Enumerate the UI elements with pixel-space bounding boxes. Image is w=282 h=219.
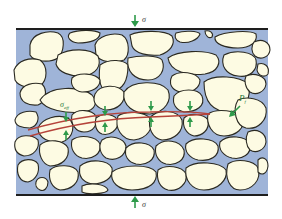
granular-fracture-diagram: σ σ σeff Pf	[0, 0, 282, 219]
sigma-bottom-arrow-icon	[131, 196, 139, 208]
sigma-bottom-label: σ	[142, 200, 147, 209]
sigma-top-label: σ	[142, 15, 147, 24]
sigma-top-arrow-icon	[131, 15, 139, 27]
sigma-eff-subscript: eff	[64, 105, 70, 110]
